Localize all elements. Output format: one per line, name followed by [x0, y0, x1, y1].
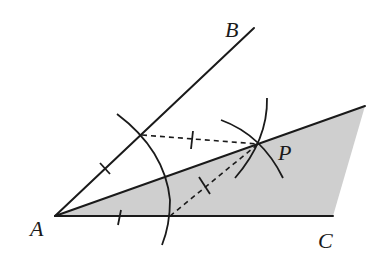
- label-a: A: [28, 216, 44, 241]
- tick-upper-dash: [191, 131, 193, 149]
- label-c: C: [318, 228, 333, 253]
- label-p: P: [277, 140, 291, 165]
- angle-bisector-diagram: A B C P: [0, 0, 385, 257]
- label-b: B: [225, 17, 238, 42]
- dashed-segment-upper: [142, 135, 258, 144]
